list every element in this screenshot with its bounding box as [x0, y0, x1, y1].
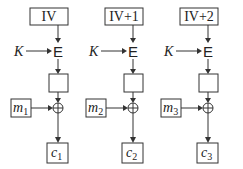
- arrow-icon: [130, 98, 136, 103]
- arrow-icon: [205, 69, 211, 74]
- keystream-box: [124, 74, 143, 92]
- arrow-icon: [198, 105, 203, 111]
- column-1: IV K E m1 c1: [11, 8, 68, 163]
- ctr-diagram: IV K E m1 c1 IV+1 K E m2: [0, 0, 243, 169]
- arrow-icon: [55, 69, 61, 74]
- encrypt-label: E: [53, 43, 63, 60]
- keystream-box: [199, 74, 218, 92]
- arrow-icon: [55, 137, 61, 143]
- keystream-box: [49, 74, 68, 92]
- xor-icon: [53, 103, 63, 113]
- arrow-icon: [130, 137, 136, 143]
- counter-label: IV: [42, 9, 57, 24]
- encrypt-label: E: [203, 43, 213, 60]
- arrow-icon: [122, 48, 127, 54]
- arrow-icon: [123, 105, 128, 111]
- xor-icon: [203, 103, 213, 113]
- key-label: K: [88, 44, 99, 59]
- column-3: IV+2 K E m3 c3: [161, 8, 218, 163]
- counter-label: IV+2: [184, 9, 214, 24]
- key-label: K: [163, 44, 174, 59]
- encrypt-label: E: [128, 43, 138, 60]
- xor-icon: [128, 103, 138, 113]
- column-2: IV+1 K E m2 c2: [86, 8, 143, 163]
- arrow-icon: [48, 105, 53, 111]
- arrow-icon: [47, 48, 52, 54]
- arrow-icon: [55, 98, 61, 103]
- key-label: K: [13, 44, 24, 59]
- arrow-icon: [130, 69, 136, 74]
- counter-label: IV+1: [109, 9, 139, 24]
- arrow-icon: [205, 98, 211, 103]
- arrow-icon: [205, 137, 211, 143]
- arrow-icon: [197, 48, 202, 54]
